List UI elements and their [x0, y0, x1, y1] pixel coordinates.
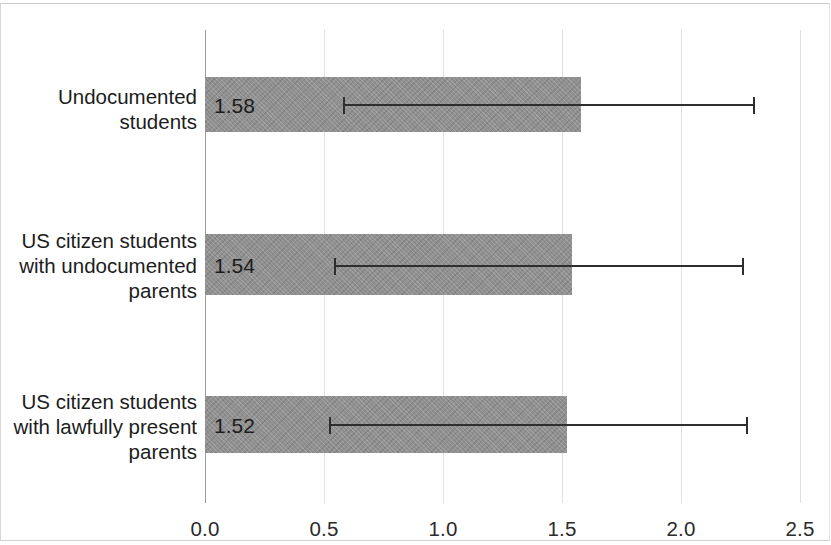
category-label-1: US citizen students with undocumented pa…	[0, 228, 197, 303]
category-axis-labels: Undocumented students US citizen student…	[0, 0, 197, 545]
tick-label-0: 0.0	[190, 517, 219, 541]
error-bar-line-1	[334, 265, 743, 267]
plot-area: 1.58 1.54 1.52 0.0 0.5 1.0 1.5 2.0 2.5	[205, 30, 800, 503]
bar-value-0: 1.58	[214, 94, 255, 118]
gridline-2.5	[800, 30, 801, 503]
tick-label-2: 1.0	[428, 517, 457, 541]
tick-label-5: 2.5	[785, 517, 814, 541]
error-bar-cap-low-0	[343, 97, 345, 114]
error-bar-line-2	[329, 424, 747, 426]
tick-label-1: 0.5	[309, 517, 338, 541]
category-label-2: US citizen students with lawfully presen…	[0, 389, 197, 464]
error-bar-cap-high-1	[742, 258, 744, 275]
error-bar-cap-low-1	[334, 258, 336, 275]
error-bar-cap-high-2	[746, 417, 748, 434]
error-bar-line-0	[343, 104, 754, 106]
bar-value-2: 1.52	[214, 414, 255, 438]
error-bar-cap-high-0	[753, 97, 755, 114]
error-bar-cap-low-2	[329, 417, 331, 434]
tick-label-3: 1.5	[547, 517, 576, 541]
bar-chart-figure: Undocumented students US citizen student…	[0, 0, 831, 545]
bar-value-1: 1.54	[214, 254, 255, 278]
category-label-0: Undocumented students	[0, 84, 197, 134]
tick-label-4: 2.0	[666, 517, 695, 541]
